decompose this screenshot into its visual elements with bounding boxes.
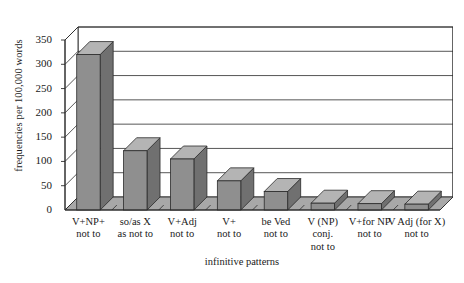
y-axis-tick-label: 300 [22,58,52,69]
x-axis-tick-label: V Adj (for X)not to [388,216,446,241]
y-axis-tick-label: 250 [22,83,52,94]
bar-chart: frequencies per 100,000 words 3503002502… [0,0,464,283]
y-axis-tick-label: 350 [22,34,52,45]
x-axis-title: infinitive patterns [0,256,464,267]
bar-column [170,146,206,210]
bar-column [124,138,160,210]
bar-column [77,42,113,210]
y-axis-tick-label: 100 [22,155,52,166]
y-axis-tick-label: 50 [22,180,52,191]
y-axis-tick-labels: 350300250200150100500 [20,0,52,283]
x-axis-tick-labels: V+NP+not toso/as Xas not toV+Adjnot toV+… [53,216,455,276]
y-axis-tick-label: 0 [22,204,52,215]
x-axis-title-text: infinitive patterns [205,256,279,267]
plot-area [53,14,453,224]
y-axis-tick-label: 150 [22,131,52,142]
y-axis-tick-label: 200 [22,107,52,118]
plot-svg [53,14,453,224]
